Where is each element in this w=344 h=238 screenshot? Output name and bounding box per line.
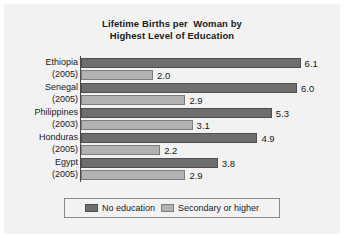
bar-value-label: 2.9 (189, 170, 202, 181)
category-group: Senegal(2005)6.02.9 (4, 82, 340, 107)
plot-area: Ethiopia(2005)6.12.0Senegal(2005)6.02.9P… (4, 56, 340, 184)
chart-title: Lifetime Births per Woman by Highest Lev… (4, 18, 340, 42)
category-label: Philippines (0, 107, 78, 118)
category-label: Egypt (0, 157, 78, 168)
category-group: Ethiopia(2005)6.12.0 (4, 57, 340, 82)
chart-legend: No education Secondary or higher (64, 198, 280, 218)
category-label: Senegal (0, 82, 78, 93)
bar-secondary-or-higher (81, 170, 185, 180)
bar-value-label: 6.1 (305, 58, 318, 69)
bar-secondary-or-higher (81, 145, 160, 155)
bar-no-education (81, 83, 297, 93)
bar-no-education (81, 108, 272, 118)
bar-value-label: 2.9 (189, 95, 202, 106)
category-group: Honduras(2005)4.92.2 (4, 132, 340, 157)
category-group: Egypt(2005)3.82.9 (4, 157, 340, 182)
legend-entry-secondary-or-higher: Secondary or higher (161, 203, 259, 213)
category-group: Philippines(2003)5.33.1 (4, 107, 340, 132)
bar-secondary-or-higher (81, 70, 153, 80)
bar-value-label: 6.0 (301, 83, 314, 94)
bar-value-label: 4.9 (261, 133, 274, 144)
bar-no-education (81, 158, 218, 168)
bar-no-education (81, 133, 257, 143)
legend-label-no-education: No education (102, 203, 155, 213)
category-year-label: (2005) (0, 94, 78, 105)
bar-value-label: 2.0 (157, 70, 170, 81)
bar-value-label: 3.1 (197, 120, 210, 131)
dark-gray-swatch-icon (85, 204, 98, 212)
bar-no-education (81, 58, 301, 68)
category-label: Ethiopia (0, 57, 78, 68)
category-year-label: (2005) (0, 69, 78, 80)
category-label: Honduras (0, 132, 78, 143)
legend-label-secondary-or-higher: Secondary or higher (178, 203, 259, 213)
bar-value-label: 5.3 (276, 108, 289, 119)
chart-figure: Lifetime Births per Woman by Highest Lev… (4, 4, 340, 234)
category-year-label: (2003) (0, 119, 78, 130)
light-gray-swatch-icon (161, 204, 174, 212)
bar-secondary-or-higher (81, 95, 185, 105)
category-year-label: (2005) (0, 169, 78, 180)
legend-entry-no-education: No education (85, 203, 155, 213)
bar-value-label: 2.2 (164, 145, 177, 156)
bar-value-label: 3.8 (222, 158, 235, 169)
bar-secondary-or-higher (81, 120, 193, 130)
category-year-label: (2005) (0, 144, 78, 155)
